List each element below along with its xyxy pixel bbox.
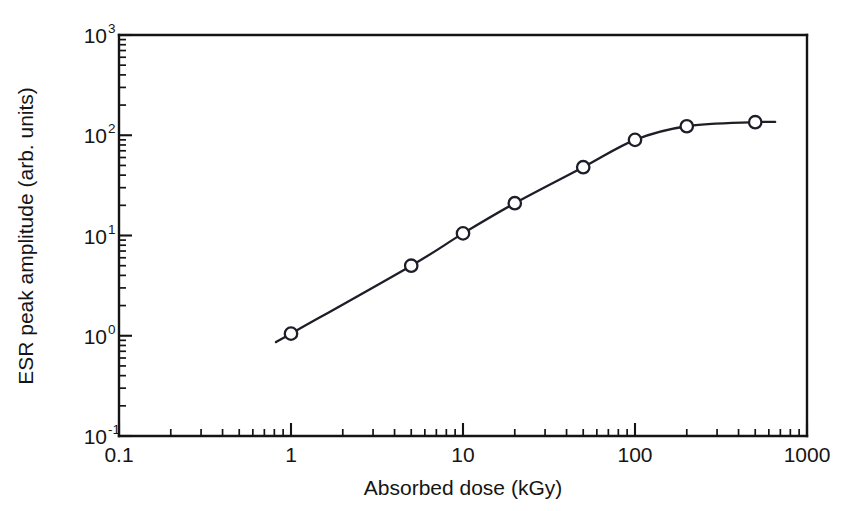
esr-dose-response-log-log-plot: 10-1100101102103 0.11101001000 Absorbed … [0, 0, 855, 511]
x-tick-label: 1 [285, 443, 297, 466]
y-axis-label: ESR peak amplitude (arb. units) [14, 87, 37, 385]
x-tick-label: 100 [617, 443, 652, 466]
data-point [681, 120, 693, 132]
data-point [405, 259, 417, 271]
svg-text:10: 10 [84, 124, 107, 147]
svg-text:10: 10 [84, 325, 107, 348]
data-point [629, 134, 641, 146]
data-point [577, 161, 589, 173]
x-axis-label: Absorbed dose (kGy) [364, 476, 562, 499]
data-point [749, 116, 761, 128]
x-tick-label: 0.1 [104, 443, 133, 466]
x-tick-label: 1000 [784, 443, 831, 466]
svg-text:3: 3 [108, 21, 116, 36]
data-point [457, 227, 469, 239]
svg-text:10: 10 [84, 225, 107, 248]
data-point [285, 327, 297, 339]
svg-text:-1: -1 [108, 422, 120, 437]
chart-figure: 10-1100101102103 0.11101001000 Absorbed … [0, 0, 855, 511]
svg-text:2: 2 [108, 121, 116, 136]
svg-text:0: 0 [108, 322, 116, 337]
data-point [509, 197, 521, 209]
svg-text:10: 10 [84, 24, 107, 47]
x-tick-label: 10 [451, 443, 474, 466]
svg-text:1: 1 [108, 222, 116, 237]
